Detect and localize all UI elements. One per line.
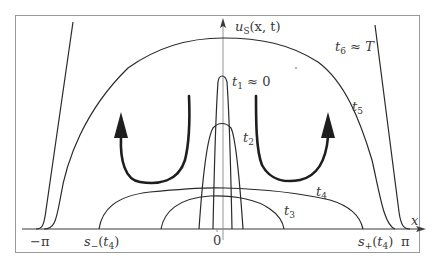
curve-t3 xyxy=(161,196,284,229)
label-s-plus-t4: s+(t4) xyxy=(358,235,393,251)
arrow-up-left-icon xyxy=(114,112,128,138)
label-s-minus-t4: s−(t4) xyxy=(84,235,119,251)
label-t2: t2 xyxy=(243,131,254,147)
arrow-up-right-icon xyxy=(321,112,335,138)
tick-pi: π xyxy=(401,235,410,248)
curve-t5 xyxy=(44,38,395,229)
label-t4: t4 xyxy=(316,185,327,201)
curve-t1 xyxy=(213,76,232,229)
arrow-right-path xyxy=(256,96,328,181)
label-t5: t5 xyxy=(352,100,363,116)
label-t3: t3 xyxy=(284,204,295,220)
tick-minus-pi: −π xyxy=(30,235,49,248)
y-axis-label: uS(x, t) xyxy=(235,20,281,36)
curve-t2 xyxy=(199,124,243,230)
curve-t6 xyxy=(36,22,73,229)
label-t1: t1 ≈ 0 xyxy=(232,75,270,91)
label-t6: t6 ≈ T xyxy=(335,40,374,56)
arrow-left-path xyxy=(121,96,190,183)
x-axis-label: x xyxy=(411,214,418,227)
tick-zero: 0 xyxy=(213,234,221,247)
